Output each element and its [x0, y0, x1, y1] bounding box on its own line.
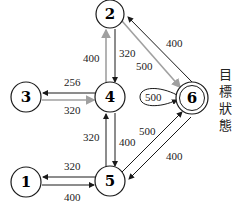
- node-6-goal: 6: [176, 82, 208, 114]
- node-3: 3: [11, 82, 41, 112]
- node-5: 5: [95, 166, 125, 196]
- node-1: 1: [11, 167, 41, 197]
- edge-label-1-5: 400: [64, 191, 81, 203]
- edge-label-3-4: 320: [64, 104, 81, 116]
- goal-state-label: 目 標 狀 態: [218, 66, 232, 134]
- svg-text:2: 2: [105, 5, 115, 23]
- edge-label-5-6: 500: [139, 125, 156, 137]
- svg-text:3: 3: [21, 88, 31, 106]
- edge-label-6-2: 400: [166, 37, 183, 49]
- svg-text:5: 5: [105, 172, 115, 190]
- edge-label-2-4: 320: [119, 47, 136, 59]
- edge-label-2-6: 500: [136, 60, 153, 72]
- edge-label-5-1: 320: [64, 160, 81, 172]
- edge-label-6-5: 400: [166, 150, 183, 162]
- edge-label-4-5: 400: [119, 136, 136, 148]
- state-graph: 400 320 500 400 256 320 500 320 400 500 …: [0, 0, 235, 208]
- node-2: 2: [96, 0, 124, 28]
- edge-label-5-4: 320: [83, 131, 100, 143]
- node-4: 4: [95, 82, 125, 112]
- edge-label-4-3: 256: [64, 76, 81, 88]
- svg-text:1: 1: [21, 173, 31, 191]
- svg-text:4: 4: [105, 88, 115, 106]
- svg-text:6: 6: [187, 89, 197, 107]
- edge-label-6-self: 500: [145, 91, 162, 103]
- edge-label-4-2: 400: [83, 52, 100, 64]
- edge-6-to-2: [128, 17, 192, 82]
